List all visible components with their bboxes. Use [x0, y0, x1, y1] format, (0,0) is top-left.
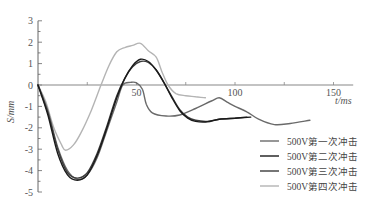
- legend-label: 500V第一次冲击: [287, 136, 358, 147]
- legend-item: 500V第二次冲击: [260, 151, 358, 162]
- series-line-4: [38, 43, 205, 150]
- legend-item: 500V第三次冲击: [260, 166, 358, 177]
- legend: 500V第一次冲击500V第二次冲击500V第三次冲击500V第四次冲击: [260, 136, 358, 192]
- x-tick-label: 100: [228, 87, 243, 98]
- y-tick-label: -5: [25, 187, 33, 198]
- legend-item: 500V第一次冲击: [260, 136, 358, 147]
- series-line-1: [38, 82, 310, 179]
- y-tick-label: 3: [28, 15, 33, 26]
- series-line-2: [38, 59, 251, 180]
- series-layer: [38, 43, 310, 180]
- y-axis-label: S/mm: [5, 101, 16, 123]
- y-tick-label: 2: [28, 37, 33, 48]
- y-tick-label: -2: [25, 122, 33, 133]
- x-tick-label: 50: [132, 87, 142, 98]
- legend-label: 500V第四次冲击: [287, 181, 358, 192]
- x-axis-label: t/ms: [335, 95, 352, 106]
- legend-label: 500V第三次冲击: [287, 166, 358, 177]
- legend-item: 500V第四次冲击: [260, 181, 358, 192]
- y-tick-label: -1: [25, 101, 33, 112]
- y-tick-label: -4: [25, 165, 33, 176]
- legend-label: 500V第二次冲击: [287, 151, 358, 162]
- x-axis: 50100150: [38, 82, 353, 98]
- displacement-chart: 3210-1-2-3-4-5 50100150 S/mm t/ms 500V第一…: [0, 0, 366, 204]
- y-axis: 3210-1-2-3-4-5: [25, 15, 42, 197]
- y-tick-label: -3: [25, 144, 33, 155]
- y-tick-label: 0: [28, 80, 33, 91]
- y-tick-label: 1: [28, 58, 33, 69]
